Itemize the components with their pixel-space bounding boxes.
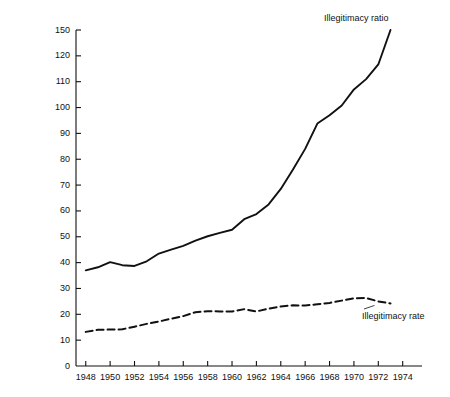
tick-marks-group [76, 30, 403, 366]
y-tick-label: 50 [36, 232, 70, 241]
y-tick-label: 60 [36, 206, 70, 215]
y-tick-label: 150 [36, 26, 70, 35]
annotation-leader-lines [364, 305, 374, 309]
y-tick-label: 70 [36, 181, 70, 190]
series-annotation-illegitimacy-ratio: Illegitimacy ratio [324, 13, 389, 23]
y-tick-label: 20 [36, 310, 70, 319]
y-tick-label: 80 [36, 155, 70, 164]
y-tick-label: 40 [36, 258, 70, 267]
y-tick-label: 100 [36, 103, 70, 112]
series-line-illegitimacy-rate [86, 298, 391, 332]
y-tick-label: 120 [36, 51, 70, 60]
y-tick-label: 90 [36, 129, 70, 138]
series-line-illegitimacy-ratio [86, 30, 391, 270]
data-series-group [86, 30, 391, 332]
y-tick-label: 30 [36, 284, 70, 293]
chart-figure: Rate per 1000 15012011010090807060504030… [0, 0, 450, 397]
x-tick-label: 1974 [383, 373, 423, 382]
y-tick-label: 110 [36, 77, 70, 86]
series-annotation-illegitimacy-rate: Illegitimacy rate [362, 311, 425, 321]
annotation-leader-illegitimacy-rate [364, 305, 374, 309]
y-tick-label: 0 [36, 362, 70, 371]
y-tick-label: 10 [36, 336, 70, 345]
